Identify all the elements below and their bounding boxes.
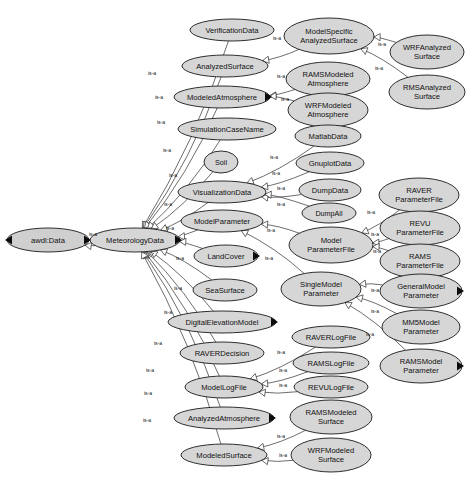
edge-label-is-a: is-a <box>277 433 285 439</box>
edge-label-is-a: is-a <box>281 96 289 102</box>
edge-label-is-a: is-a <box>279 382 287 388</box>
class-node-revu-parameter-file[interactable]: REVUParameterFile <box>380 211 460 245</box>
class-node-rams-parameter-file[interactable]: RAMSParameterFile <box>380 244 460 278</box>
class-node-digital-elevation-model[interactable]: DigitalElevationModel <box>168 311 278 333</box>
edge-label-is-a: is-a <box>155 94 163 100</box>
edge-label-is-a: is-a <box>154 340 162 346</box>
node-label: Surface <box>318 455 344 464</box>
edge-label-is-a: is-a <box>371 287 379 293</box>
class-node-rams-modeled-atmosphere[interactable]: RAMSModeledAtmosphere <box>286 62 370 96</box>
class-node-wrf-analyzed-surface[interactable]: WRFAnalyzedSurface <box>390 35 464 69</box>
node-label: RAMS <box>409 252 431 261</box>
node-label: ModelLogFile <box>201 383 247 392</box>
edge-label-is-a: is-a <box>270 154 278 160</box>
edge-label-is-a: is-a <box>371 308 379 314</box>
class-node-matlab-data[interactable]: MatlabData <box>295 125 361 147</box>
edge-label-is-a: is-a <box>277 201 285 207</box>
class-node-model-log-file[interactable]: ModelLogFile <box>185 376 263 398</box>
class-node-general-model-parameter[interactable]: GeneralModelParameter <box>380 274 464 308</box>
node-label: SeaSurface <box>205 286 245 295</box>
edge-label-is-a: is-a <box>279 452 287 458</box>
class-node-raver-decision[interactable]: RAVERDecision <box>180 342 264 364</box>
edge-label-is-a: is-a <box>166 225 174 231</box>
class-node-soil[interactable]: Soil <box>204 151 238 173</box>
class-node-rams-modeled-surface[interactable]: RAMSModeledSurface <box>290 400 372 434</box>
class-node-rams-model-parameter[interactable]: RAMSModelParameter <box>380 349 464 383</box>
ontology-diagram: awdl:DataMeteorologyDataVerificationData… <box>0 0 469 481</box>
class-node-modeled-surface[interactable]: ModeledSurface <box>181 444 267 466</box>
node-label: DumpData <box>312 186 349 195</box>
edge-label-is-a: is-a <box>373 248 381 254</box>
class-node-raver-log-file[interactable]: RAVERLogFile <box>292 326 370 348</box>
node-label: ModeledAtmosphere <box>187 93 257 102</box>
class-node-single-model-parameter[interactable]: SingleModelParameter <box>281 272 361 306</box>
edge-label-is-a: is-a <box>277 73 285 79</box>
edge-label-is-a: is-a <box>163 147 171 153</box>
edge-label-is-a: is-a <box>367 209 375 215</box>
edge-label-is-a: is-a <box>144 390 152 396</box>
class-node-model-specific-analyzed-surface[interactable]: ModelSpecificAnalyzedSurface <box>284 18 374 54</box>
node-label: RAMSModeled <box>305 408 356 417</box>
node-label: ModelSpecific <box>305 27 352 36</box>
edge-label-is-a: is-a <box>157 119 165 125</box>
class-node-dump-all[interactable]: DumpAll <box>302 203 356 223</box>
class-node-rams-log-file[interactable]: RAMSLogFile <box>293 352 369 374</box>
class-node-verification-data[interactable]: VerificationData <box>190 19 274 41</box>
class-node-model-parameter[interactable]: ModelParameter <box>181 210 263 232</box>
generalization-arrowhead <box>374 34 380 41</box>
edge-label-is-a: is-a <box>143 417 151 423</box>
class-node-raver-parameter-file[interactable]: RAVERParameterFile <box>379 178 459 212</box>
class-node-sea-surface[interactable]: SeaSurface <box>193 279 257 301</box>
class-node-wrf-modeled-atmosphere[interactable]: WRFModeledAtmosphere <box>288 93 368 127</box>
node-label: ModelParameter <box>194 217 251 226</box>
node-label: Surface <box>318 417 344 426</box>
edge-label-is-a: is-a <box>277 185 285 191</box>
class-node-wrf-modeled-surface[interactable]: WRFModeledSurface <box>291 438 371 472</box>
node-label: DumpAll <box>315 209 343 218</box>
node-label: REVULogFile <box>308 383 354 392</box>
node-label: RAMSLogFile <box>308 359 355 368</box>
class-node-modeled-atmosphere[interactable]: ModeledAtmosphere <box>174 86 272 108</box>
edge-label-is-a: is-a <box>265 255 273 261</box>
class-node-mm5-model-parameter[interactable]: MM5ModelParameter <box>382 310 460 344</box>
node-label: Atmosphere <box>308 110 349 119</box>
edge-label-is-a: is-a <box>272 170 280 176</box>
class-node-awdl-data[interactable]: awdl:Data <box>5 228 91 252</box>
edge-label-is-a: is-a <box>89 231 97 237</box>
node-label: VerificationData <box>205 26 259 35</box>
edge-label-is-a: is-a <box>148 70 156 76</box>
class-node-visualization-data[interactable]: VisualizationData <box>178 181 266 203</box>
node-label: AnalyzedAtmosphere <box>188 414 260 423</box>
edge-label-is-a: is-a <box>279 367 287 373</box>
class-hierarchy-graph: awdl:DataMeteorologyDataVerificationData… <box>0 0 469 481</box>
node-label: MM5Model <box>402 318 440 327</box>
class-node-rms-analyzed-surface[interactable]: RMSAnalyzedSurface <box>389 75 465 109</box>
node-label: VisualizationData <box>193 188 252 197</box>
node-label: SingleModel <box>300 280 342 289</box>
class-node-analyzed-atmosphere[interactable]: AnalyzedAtmosphere <box>174 407 276 429</box>
node-label: Atmosphere <box>308 79 349 88</box>
node-label: SimulationCaseName <box>190 125 263 134</box>
node-label: Parameter <box>403 366 439 375</box>
nodes-layer: awdl:DataMeteorologyDataVerificationData… <box>5 18 465 472</box>
class-node-simulation-case-name[interactable]: SimulationCaseName <box>178 118 276 140</box>
class-node-meteorology-data[interactable]: MeteorologyData <box>90 228 182 252</box>
node-label: RAMSModeled <box>302 70 353 79</box>
node-label: WRFAnalyzed <box>403 43 451 52</box>
node-label: WRFModeled <box>305 101 351 110</box>
edge-label-is-a: is-a <box>375 65 383 71</box>
class-node-analyzed-surface[interactable]: AnalyzedSurface <box>182 55 268 77</box>
node-label: AnalyzedSurface <box>196 62 253 71</box>
node-label: GeneralModel <box>397 282 445 291</box>
edge-label-is-a: is-a <box>277 349 285 355</box>
class-node-dump-data[interactable]: DumpData <box>299 179 361 201</box>
edge-label-is-a: is-a <box>146 367 154 373</box>
class-node-revu-log-file[interactable]: REVULogFile <box>294 376 368 398</box>
edge-label-is-a: is-a <box>378 41 386 47</box>
edge-label-is-a: is-a <box>164 309 172 315</box>
class-node-gnuplot-data[interactable]: GnuplotData <box>296 152 364 174</box>
node-label: Surface <box>414 52 440 61</box>
class-node-model-parameter-file[interactable]: ModelParameterFile <box>289 227 373 263</box>
class-node-land-cover[interactable]: LandCover <box>194 245 260 267</box>
edge-label-is-a: is-a <box>174 285 182 291</box>
